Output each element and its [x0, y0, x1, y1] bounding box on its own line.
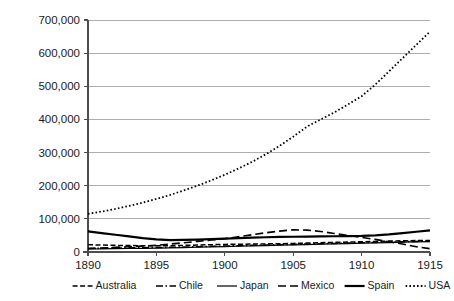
x-axis-tick-label: 1905: [280, 259, 306, 271]
y-axis-tick-label: 700,000: [38, 14, 80, 26]
series-line-spain: [88, 230, 430, 240]
legend-label-australia: Australia: [96, 279, 137, 291]
x-axis-tick-label: 1910: [349, 259, 375, 271]
y-axis-tick-label: 200,000: [38, 180, 80, 192]
gridlines: [88, 20, 430, 252]
y-axis-tick-label: 100,000: [38, 213, 80, 225]
y-axis-tick-label: 500,000: [38, 80, 80, 92]
y-axis-tick-label: 600,000: [38, 47, 80, 59]
x-axis-tick-label: 1915: [417, 259, 443, 271]
y-axis-tick-label: 0: [74, 246, 80, 258]
series-line-usa: [88, 32, 430, 214]
series-line-japan: [88, 242, 430, 249]
axes: [83, 20, 430, 256]
legend-label-spain: Spain: [368, 279, 395, 291]
legend-label-mexico: Mexico: [301, 279, 334, 291]
legend-label-japan: Japan: [240, 279, 269, 291]
chart-legend: AustraliaChileJapanMexicoSpainUSA: [73, 279, 451, 291]
x-axis-tick-label: 1890: [75, 259, 101, 271]
legend-label-chile: Chile: [179, 279, 203, 291]
chart-canvas: 0100,000200,000300,000400,000500,000600,…: [0, 0, 454, 301]
y-axis-tick-labels: 0100,000200,000300,000400,000500,000600,…: [38, 14, 80, 258]
y-axis-tick-label: 400,000: [38, 113, 80, 125]
data-series: [88, 32, 430, 249]
series-line-chile: [88, 241, 430, 248]
x-axis-tick-label: 1895: [144, 259, 170, 271]
x-axis-tick-labels: 189018951900190519101915: [75, 259, 443, 271]
x-axis-tick-label: 1900: [212, 259, 238, 271]
line-chart: 0100,000200,000300,000400,000500,000600,…: [0, 0, 454, 301]
legend-label-usa: USA: [429, 279, 451, 291]
y-axis-tick-label: 300,000: [38, 147, 80, 159]
